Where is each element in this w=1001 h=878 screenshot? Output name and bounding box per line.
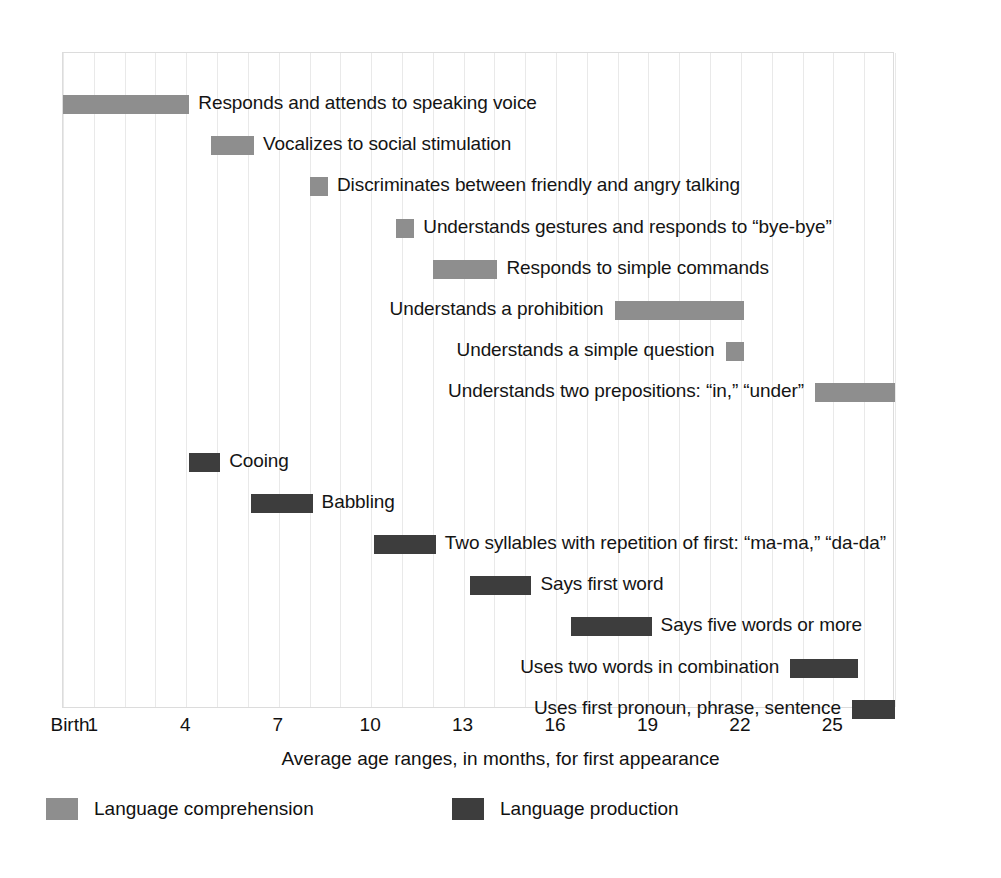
range-bar-label: Responds and attends to speaking voice — [198, 90, 536, 116]
x-tick-label-4: 4 — [180, 712, 191, 738]
chart-row: Understands gestures and responds to “by… — [63, 215, 893, 241]
legend-item-comp[interactable]: Language comprehension — [46, 798, 314, 820]
chart-legend: Language comprehensionLanguage productio… — [0, 798, 1001, 838]
range-bar — [470, 576, 532, 595]
range-bar-label: Understands a simple question — [457, 337, 715, 363]
range-bar — [571, 617, 651, 636]
chart-row: Responds to simple commands — [63, 256, 893, 282]
legend-label: Language comprehension — [94, 798, 314, 820]
range-bar-label: Discriminates between friendly and angry… — [337, 172, 740, 198]
chart-row: Says first word — [63, 572, 893, 598]
range-bar-label: Says five words or more — [661, 612, 863, 638]
chart-row: Two syllables with repetition of first: … — [63, 531, 893, 557]
x-tick-label-25: 25 — [822, 712, 843, 738]
chart-row: Understands a simple question — [63, 338, 893, 364]
gridline-month-27 — [895, 53, 896, 707]
range-bar — [726, 342, 744, 361]
range-bar — [251, 494, 313, 513]
range-bar-label: Two syllables with repetition of first: … — [445, 530, 886, 556]
range-bar — [790, 659, 858, 678]
chart-row: Understands two prepositions: “in,” “und… — [63, 379, 893, 405]
range-bar — [63, 95, 189, 114]
range-bar — [374, 535, 436, 554]
x-tick-label-1: 1 — [88, 712, 99, 738]
x-tick-label-13: 13 — [452, 712, 473, 738]
range-bar — [615, 301, 744, 320]
range-bar-label: Cooing — [229, 448, 289, 474]
chart-row: Discriminates between friendly and angry… — [63, 173, 893, 199]
range-bar-label: Says first word — [540, 571, 663, 597]
range-bar — [211, 136, 254, 155]
range-bar-label: Babbling — [322, 489, 395, 515]
chart-row: Uses two words in combination — [63, 655, 893, 681]
x-tick-label-16: 16 — [544, 712, 565, 738]
range-bar — [815, 383, 895, 402]
chart-row: Responds and attends to speaking voice — [63, 91, 893, 117]
range-bar-label: Vocalizes to social stimulation — [263, 131, 511, 157]
legend-swatch-icon — [452, 798, 484, 820]
range-bar — [189, 453, 220, 472]
chart-row: Babbling — [63, 490, 893, 516]
range-bar-label: Understands a prohibition — [390, 296, 604, 322]
x-tick-label-22: 22 — [729, 712, 750, 738]
range-bar-label: Uses two words in combination — [520, 654, 779, 680]
x-tick-label-10: 10 — [360, 712, 381, 738]
range-bar — [433, 260, 498, 279]
legend-label: Language production — [500, 798, 679, 820]
x-tick-label-7: 7 — [272, 712, 283, 738]
range-bar-label: Understands gestures and responds to “by… — [423, 214, 831, 240]
chart-row: Understands a prohibition — [63, 297, 893, 323]
language-milestones-chart: Responds and attends to speaking voiceVo… — [0, 0, 1001, 878]
x-tick-label-birth: Birth — [50, 712, 89, 738]
chart-row: Says five words or more — [63, 613, 893, 639]
range-bar-label: Understands two prepositions: “in,” “und… — [448, 378, 804, 404]
legend-item-prod[interactable]: Language production — [452, 798, 679, 820]
range-bar — [396, 219, 414, 238]
chart-row: Vocalizes to social stimulation — [63, 132, 893, 158]
x-axis: Birth147101316192225 — [0, 712, 1001, 752]
legend-swatch-icon — [46, 798, 78, 820]
range-bar — [310, 177, 328, 196]
x-axis-title: Average age ranges, in months, for first… — [0, 748, 1001, 770]
range-bar-label: Responds to simple commands — [506, 255, 768, 281]
chart-row: Cooing — [63, 449, 893, 475]
plot-area: Responds and attends to speaking voiceVo… — [62, 52, 894, 708]
x-tick-label-19: 19 — [637, 712, 658, 738]
